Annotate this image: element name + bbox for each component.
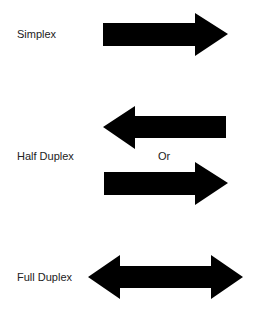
simplex-right-arrow-icon: [103, 13, 228, 56]
full-duplex-double-arrow-icon: [88, 255, 243, 299]
half-duplex-left-arrow-icon: [103, 106, 226, 149]
arrows-canvas: [0, 0, 255, 317]
half-duplex-right-arrow-icon: [104, 162, 228, 205]
